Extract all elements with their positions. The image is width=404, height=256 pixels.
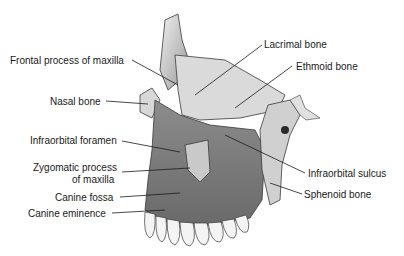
maxilla-diagram: Frontal process of maxilla Nasal bone In… [0, 0, 404, 256]
label-canine-eminence: Canine eminence [28, 208, 106, 219]
label-infraorbital-foramen: Infraorbital foramen [30, 135, 117, 146]
label-sphenoid-bone: Sphenoid bone [304, 189, 371, 200]
label-zygomatic-process-line1: Zygomatic process [33, 162, 117, 173]
label-frontal-process: Frontal process of maxilla [10, 55, 124, 66]
label-canine-fossa: Canine fossa [55, 192, 113, 203]
label-infraorbital-sulcus: Infraorbital sulcus [308, 168, 386, 179]
label-nasal-bone: Nasal bone [50, 96, 101, 107]
label-ethmoid-bone: Ethmoid bone [296, 61, 358, 72]
sphenoid-foramen [281, 126, 289, 134]
sphenoid-shape [260, 100, 300, 205]
label-zygomatic-process-line2: of maxilla [72, 174, 114, 185]
label-lacrimal-bone: Lacrimal bone [264, 39, 327, 50]
